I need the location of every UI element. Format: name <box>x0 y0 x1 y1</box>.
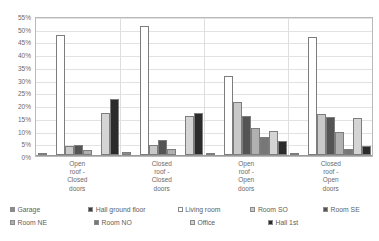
bar[interactable] <box>110 99 119 155</box>
legend-swatch-icon <box>10 220 15 225</box>
bar[interactable] <box>140 26 149 155</box>
y-axis-tick: 55% <box>18 14 31 21</box>
chart-legend: GarageHall ground floorLiving roomRoom S… <box>0 203 379 241</box>
legend-label: Hall 1st <box>276 219 299 226</box>
bar[interactable] <box>185 116 194 155</box>
legend-swatch-icon <box>88 207 93 212</box>
bar[interactable] <box>101 113 110 155</box>
legend-label: Room SO <box>258 206 288 213</box>
y-axis-tick: 50% <box>18 26 31 33</box>
legend-item[interactable]: Room NE <box>10 219 94 226</box>
plot-area <box>35 17 373 157</box>
legend-swatch-icon <box>250 207 255 212</box>
y-axis-tick: 30% <box>18 77 31 84</box>
bar[interactable] <box>260 137 269 155</box>
y-axis-tick: 5% <box>22 141 31 148</box>
y-axis-tick: 10% <box>18 128 31 135</box>
legend-swatch-icon <box>10 207 15 212</box>
legend-swatch-icon <box>323 207 328 212</box>
legend-item[interactable]: Hall ground floor <box>88 206 177 213</box>
plot-wrapper: 55%50%45%40%35%30%25%20%15%10%5%0% Openr… <box>0 0 379 200</box>
bar-chart: 55%50%45%40%35%30%25%20%15%10%5%0% Openr… <box>0 0 379 241</box>
legend-label: Office <box>198 219 216 226</box>
bar[interactable] <box>65 146 74 155</box>
y-axis-tick: 20% <box>18 103 31 110</box>
x-axis-label: Closedroof -Closeddoors <box>120 159 205 201</box>
legend-label: Garage <box>18 206 41 213</box>
bar-group <box>288 18 372 155</box>
bar-group <box>204 18 288 155</box>
bar-group <box>120 18 204 155</box>
bar[interactable] <box>362 146 371 155</box>
bar[interactable] <box>326 117 335 155</box>
x-axis-label: Openroof -Opendoors <box>204 159 289 201</box>
bar[interactable] <box>74 145 83 155</box>
legend-swatch-icon <box>268 220 273 225</box>
bar-groups <box>36 18 372 155</box>
bar[interactable] <box>269 131 278 155</box>
y-axis: 55%50%45%40%35%30%25%20%15%10%5%0% <box>0 0 34 200</box>
legend-row: GarageHall ground floorLiving roomRoom S… <box>10 203 379 216</box>
bar[interactable] <box>251 128 260 155</box>
bar-group <box>36 18 120 155</box>
legend-row: Room NERoom NOOfficeHall 1st <box>10 216 379 229</box>
y-axis-tick: 45% <box>18 39 31 46</box>
legend-item[interactable]: Living room <box>178 206 251 213</box>
legend-swatch-icon <box>178 207 183 212</box>
legend-item[interactable]: Room SE <box>323 206 379 213</box>
y-axis-tick: 15% <box>18 115 31 122</box>
y-axis-tick: 25% <box>18 90 31 97</box>
legend-item[interactable]: Hall 1st <box>268 219 346 226</box>
bar[interactable] <box>335 132 344 155</box>
legend-item[interactable]: Office <box>190 219 268 226</box>
bar[interactable] <box>233 102 242 155</box>
bar[interactable] <box>158 140 167 155</box>
legend-item[interactable]: Room NO <box>94 219 190 226</box>
x-axis-label: Closedroof -Opendoors <box>289 159 374 201</box>
legend-swatch-icon <box>94 220 99 225</box>
bar[interactable] <box>56 35 65 155</box>
y-axis-tick: 35% <box>18 64 31 71</box>
bar[interactable] <box>353 118 362 155</box>
x-axis-labels: Openroof -CloseddoorsClosedroof -Closedd… <box>35 159 373 201</box>
legend-swatch-icon <box>190 220 195 225</box>
legend-item[interactable]: Garage <box>10 206 88 213</box>
x-axis-baseline <box>36 155 372 156</box>
bar[interactable] <box>317 114 326 155</box>
bar[interactable] <box>194 113 203 155</box>
legend-label: Hall ground floor <box>96 206 146 213</box>
bar[interactable] <box>308 37 317 155</box>
legend-label: Room NE <box>18 219 47 226</box>
legend-label: Room NO <box>102 219 132 226</box>
x-axis-label: Openroof -Closeddoors <box>35 159 120 201</box>
bar[interactable] <box>242 116 251 155</box>
y-axis-tick: 0% <box>22 154 31 161</box>
bar[interactable] <box>224 76 233 155</box>
y-axis-tick: 40% <box>18 52 31 59</box>
legend-item[interactable]: Room SO <box>250 206 323 213</box>
bar[interactable] <box>278 141 287 155</box>
legend-label: Room SE <box>331 206 360 213</box>
bar[interactable] <box>149 145 158 155</box>
legend-label: Living room <box>185 206 220 213</box>
